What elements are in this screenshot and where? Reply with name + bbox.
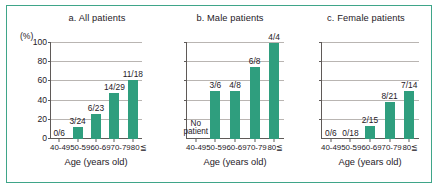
- panel-a-bar-label-1: 3/24: [69, 116, 85, 126]
- panel-a-xtick-3: [114, 139, 115, 142]
- panel-c-xtick-2: [369, 139, 370, 142]
- panel-a-xticklabels: 40-49 50-59 60-69 70-79 80≦: [50, 143, 142, 152]
- panel-c-plot-area: 0/6 0/18 2/15 8/21: [321, 43, 419, 139]
- panel-b-xticklabel-0: 40-49: [186, 143, 206, 152]
- panel-a-bar-slot-0: 0/6: [50, 43, 68, 139]
- panel-b-bar-1: [210, 91, 220, 139]
- panel-a-bar-slot-3: 14/29: [105, 43, 123, 139]
- panel-c-bar-slot-4: 7/14: [399, 43, 419, 139]
- panel-c-xticklabel-0: 40-49: [321, 143, 341, 152]
- panel-a-bar-slot-1: 3/24: [68, 43, 86, 139]
- panel-a-bars: 0/6 3/24 6/23 14/29: [50, 43, 142, 139]
- panel-b-xtick-1: [215, 139, 216, 142]
- panel-a-bar-slot-2: 6/23: [87, 43, 105, 139]
- panel-female-patients: c. Female patients: [296, 5, 432, 183]
- panel-a-xtick-2: [96, 139, 97, 142]
- panel-c-xtick-0: [330, 139, 331, 142]
- panel-b-xticklabel-4: 80≦: [267, 143, 284, 152]
- panel-a-bar-label-2: 6/23: [88, 103, 104, 113]
- panel-c-xticklabel-1: 50-59: [341, 143, 361, 152]
- panel-b-xtick-2: [234, 139, 235, 142]
- panel-b-plot-area: No patient 3/6 4/8: [186, 43, 284, 139]
- panel-a-ytick-label-60: 60: [37, 75, 47, 85]
- panel-a-bar-label-0: 0/6: [53, 128, 65, 138]
- panel-a-unit-label: (%): [20, 31, 33, 41]
- panel-b-bar-slot-3: 6/8: [245, 43, 265, 139]
- panel-b-xticklabel-2: 60-69: [226, 143, 246, 152]
- panel-b-bar-4: [269, 43, 279, 139]
- panel-a-xticklabel-4: 80≦: [131, 143, 147, 152]
- panel-b-xticklabels: 40-49 50-59 60-69 70-79 80≦: [186, 143, 284, 152]
- panel-c-bar-label-0: 0/6: [325, 128, 337, 138]
- panel-a-ytick-label-20: 20: [37, 114, 47, 124]
- panel-c-xtick-1: [350, 139, 351, 142]
- panel-c-xticklabel-4: 80≦: [402, 143, 419, 152]
- panel-a-ytick-label-80: 80: [37, 56, 47, 66]
- panel-c-bar-slot-0: 0/6: [321, 43, 341, 139]
- panel-c-bar-label-3: 8/21: [381, 91, 397, 101]
- panel-b-bar-label-4: 4/4: [268, 32, 280, 42]
- panel-a-xticklabel-3: 70-79: [111, 143, 131, 152]
- panel-a-xticklabel-0: 40-49: [50, 143, 70, 152]
- panel-b-bar-label-1: 3/6: [210, 80, 222, 90]
- panel-c-bar-3: [385, 102, 395, 139]
- panel-a-bar-3: [109, 93, 119, 139]
- panel-b-bar-slot-4: 4/4: [264, 43, 284, 139]
- panel-c-bar-label-2: 2/15: [362, 115, 378, 125]
- panel-c-xticklabel-2: 60-69: [361, 143, 381, 152]
- panel-b-xtick-4: [274, 139, 275, 142]
- panel-a-title: a. All patients: [6, 13, 172, 23]
- panel-b-xtick-3: [254, 139, 255, 142]
- panel-b-bar-slot-1: 3/6: [206, 43, 226, 139]
- panel-b-xticklabel-1: 50-59: [206, 143, 226, 152]
- panel-c-xticklabels: 40-49 50-59 60-69 70-79 80≦: [321, 143, 419, 152]
- panel-a-bar-label-4: 11/18: [123, 69, 143, 79]
- panel-a-ytick-label-40: 40: [37, 95, 47, 105]
- panel-c-bar-slot-3: 8/21: [380, 43, 400, 139]
- panel-a-ytick-label-0: 0: [42, 133, 47, 143]
- figure-container: a. All patients (%) 100 80 60: [0, 0, 438, 189]
- panel-c-bar-slot-1: 0/18: [341, 43, 361, 139]
- panel-a-ytick-label-100: 100: [33, 37, 47, 47]
- panel-all-patients: a. All patients (%) 100 80 60: [6, 5, 156, 183]
- panel-b-title: b. Male patients: [156, 13, 300, 23]
- panel-c-bar-label-1: 0/18: [342, 128, 358, 138]
- panel-a-bar-1: [73, 127, 83, 139]
- panel-b-bar-label-2: 4/8: [229, 80, 241, 90]
- panel-c-xtick-3: [389, 139, 390, 142]
- panel-c-xticklabel-3: 70-79: [382, 143, 402, 152]
- panel-a-bar-2: [91, 114, 101, 139]
- panel-a-xtick-4: [132, 139, 133, 142]
- panel-c-bar-slot-2: 2/15: [360, 43, 380, 139]
- panel-b-bar-2: [230, 91, 240, 139]
- panel-a-bar-slot-4: 11/18: [124, 43, 142, 139]
- panel-b-xaxis-title: Age (years old): [186, 157, 284, 167]
- panel-c-bar-2: [365, 126, 375, 139]
- panel-b-bar-slot-0: No patient: [186, 43, 206, 139]
- panel-a-xtick-1: [77, 139, 78, 142]
- panel-b-no-patient-line2: patient: [184, 127, 209, 136]
- panel-a-bar-4: [128, 80, 138, 139]
- panel-b-no-patient-annotation: No patient: [184, 120, 209, 137]
- panel-b-bar-label-3: 6/8: [249, 56, 261, 66]
- panel-a-plot-area: 100 80 60 40 20: [50, 43, 142, 139]
- panel-c-bars: 0/6 0/18 2/15 8/21: [321, 43, 419, 139]
- panel-b-bar-slot-2: 4/8: [225, 43, 245, 139]
- panel-a-xtick-0: [59, 139, 60, 142]
- panel-b-xtick-0: [195, 139, 196, 142]
- panel-c-bar-4: [404, 91, 414, 139]
- panel-b-bars: No patient 3/6 4/8: [186, 43, 284, 139]
- panel-c-xaxis-title: Age (years old): [321, 157, 419, 167]
- panel-b-bar-3: [250, 67, 260, 139]
- panel-male-patients: b. Male patients: [156, 5, 296, 183]
- panel-a-xaxis-title: Age (years old): [50, 157, 142, 167]
- panel-a-xticklabel-1: 50-59: [70, 143, 90, 152]
- panel-a-bar-label-3: 14/29: [104, 82, 125, 92]
- panel-a-xticklabel-2: 60-69: [90, 143, 110, 152]
- panel-c-xtick-4: [409, 139, 410, 142]
- panel-c-bar-label-4: 7/14: [401, 80, 417, 90]
- panels-row: a. All patients (%) 100 80 60: [6, 5, 432, 183]
- panel-b-xticklabel-3: 70-79: [247, 143, 267, 152]
- panel-c-title: c. Female patients: [296, 13, 434, 23]
